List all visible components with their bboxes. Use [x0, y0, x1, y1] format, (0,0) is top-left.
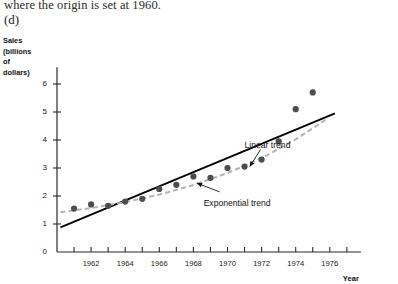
data-point [259, 157, 265, 163]
chart-canvas [0, 0, 398, 284]
x-axis-title: Year [343, 274, 359, 283]
data-point [156, 186, 162, 192]
x-tick-label: 1970 [211, 260, 245, 268]
x-tick-label: 1976 [313, 260, 347, 268]
data-point [71, 206, 77, 212]
y-tick-label: 6 [33, 80, 47, 88]
x-tick-label: 1968 [176, 260, 210, 268]
data-point [293, 106, 299, 112]
axes-group [57, 67, 361, 252]
tick-marks-group [53, 84, 347, 252]
data-point [190, 173, 196, 179]
data-point [310, 89, 316, 95]
y-tick-label: 4 [33, 136, 47, 144]
exponential-trend-annotation-arrowhead [197, 183, 203, 187]
data-point [207, 175, 213, 181]
data-point [241, 164, 247, 170]
x-tick-label: 1964 [108, 260, 142, 268]
data-point [122, 199, 128, 205]
y-tick-label: 2 [33, 192, 47, 200]
trend-lines-group [60, 113, 335, 227]
data-point [173, 182, 179, 188]
x-tick-label: 1966 [142, 260, 176, 268]
data-point [224, 165, 230, 171]
data-point [139, 196, 145, 202]
x-tick-label: 1972 [245, 260, 279, 268]
linear-trend-line [60, 113, 335, 227]
y-tick-label: 3 [33, 164, 47, 172]
exponential-trend-annotation: Exponential trend [204, 198, 271, 208]
data-point [88, 201, 94, 207]
x-tick-label: 1962 [74, 260, 108, 268]
y-tick-label: 1 [33, 220, 47, 228]
linear-trend-annotation: Linear trend [245, 140, 291, 150]
x-tick-label: 1974 [279, 260, 313, 268]
y-tick-label: 0 [33, 248, 47, 256]
data-points-group [71, 89, 316, 211]
data-point [105, 203, 111, 209]
y-tick-label: 5 [33, 108, 47, 116]
